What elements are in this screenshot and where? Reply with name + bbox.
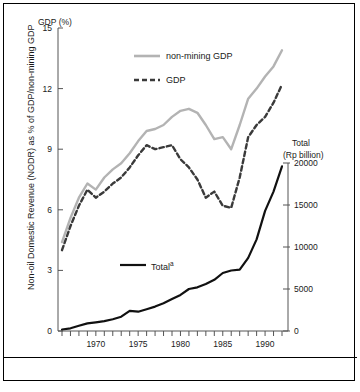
data-series-group (62, 50, 282, 329)
left-tick-label: 6 (28, 205, 52, 215)
x-tick-label: 1975 (124, 339, 152, 349)
left-tick-label: 12 (28, 84, 52, 94)
left-tick-label: 15 (28, 23, 52, 33)
series-line-gdp (62, 85, 282, 251)
series-line-total (62, 166, 282, 329)
axes-group (58, 28, 288, 331)
legend-footnote-marker: a (170, 260, 174, 267)
legend-label-gdp: GDP (166, 75, 186, 85)
right-tick-label: 10000 (294, 242, 318, 252)
left-tick-label: 0 (28, 326, 52, 336)
legend-label-non-mining-gdp: non-mining GDP (166, 51, 233, 61)
x-tick-label: 1990 (251, 339, 279, 349)
x-tick-label: 1980 (166, 339, 194, 349)
x-tick-label: 1985 (209, 339, 237, 349)
right-tick-label: 20000 (294, 158, 318, 168)
x-tick-marks (62, 331, 282, 336)
left-tick-marks (58, 28, 63, 331)
figure-page: GDP (%) Total (Rp billion) Non-oil Domes… (0, 0, 360, 392)
right-tick-marks (283, 163, 290, 331)
right-tick-label: 0 (294, 326, 299, 336)
left-tick-label: 9 (28, 144, 52, 154)
x-tick-label: 1970 (82, 339, 110, 349)
right-tick-label: 15000 (294, 200, 318, 210)
legend-label-total: Totala (151, 260, 174, 272)
legend-label-total-text: Total (151, 262, 170, 272)
left-tick-label: 3 (28, 265, 52, 275)
right-tick-label: 5000 (294, 284, 313, 294)
